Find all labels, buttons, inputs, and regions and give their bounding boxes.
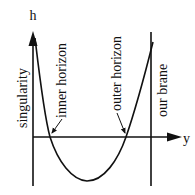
y-axis-label: y (183, 131, 190, 146)
diagram-canvas: h y singularity inner horizon outer hori… (0, 0, 195, 195)
outer-horizon-label: outer horizon (109, 36, 124, 111)
inner-horizon-label: inner horizon (54, 43, 69, 118)
outer-horizon-pointer-icon (117, 113, 125, 133)
our-brane-label: our brane (155, 64, 170, 117)
potential-curve (35, 38, 153, 181)
y-axis (33, 133, 182, 142)
inner-horizon-pointer-icon (52, 119, 62, 133)
singularity-label: singularity (15, 68, 30, 128)
y-axis-arrowhead-icon (167, 133, 182, 142)
h-axis-label: h (30, 8, 37, 23)
